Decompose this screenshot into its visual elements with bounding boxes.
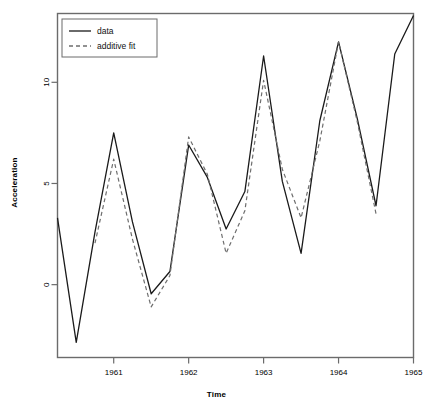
time-series-plot: 0510 19611962196319641965 dataadditive f… bbox=[0, 0, 433, 410]
y-axis-title: Acceleration bbox=[10, 138, 19, 228]
x-axis-title: Time bbox=[0, 390, 433, 399]
x-tick-label: 1965 bbox=[405, 368, 423, 377]
y-axis-ticks: 0510 bbox=[42, 77, 58, 287]
legend-label-additive-fit: additive fit bbox=[97, 41, 136, 51]
y-tick-label: 10 bbox=[42, 77, 51, 86]
x-tick-label: 1962 bbox=[180, 368, 198, 377]
plot-frame bbox=[58, 14, 414, 358]
y-tick-label: 5 bbox=[42, 181, 51, 186]
chart-canvas: 0510 19611962196319641965 dataadditive f… bbox=[0, 0, 433, 410]
x-tick-label: 1961 bbox=[105, 368, 123, 377]
series-line-additive-fit bbox=[95, 42, 376, 307]
y-tick-label: 0 bbox=[42, 282, 51, 287]
legend-label-data: data bbox=[97, 26, 114, 36]
legend-box bbox=[62, 19, 157, 57]
x-tick-label: 1963 bbox=[255, 368, 273, 377]
x-axis-ticks: 19611962196319641965 bbox=[105, 358, 423, 377]
series-layer bbox=[58, 16, 414, 343]
x-tick-label: 1964 bbox=[330, 368, 348, 377]
series-line-data bbox=[58, 16, 414, 343]
chart-legend: dataadditive fit bbox=[62, 19, 157, 57]
